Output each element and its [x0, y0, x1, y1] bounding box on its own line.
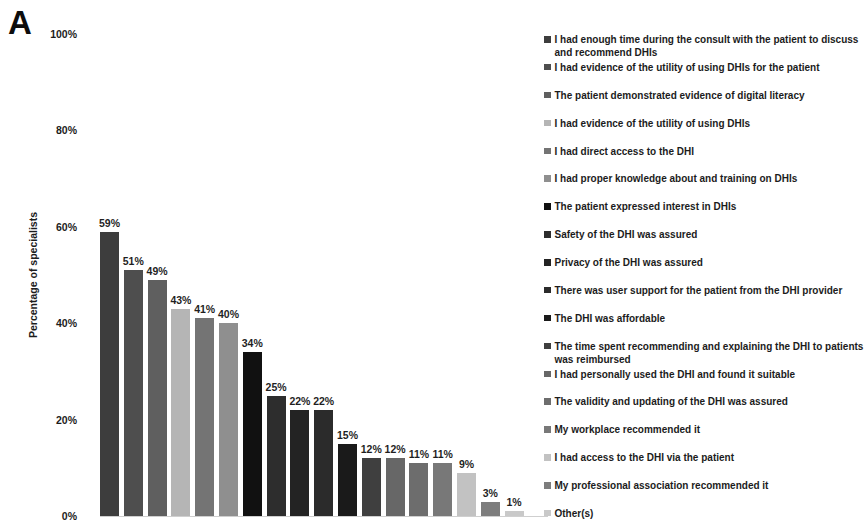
bar-value-label: 59%	[94, 217, 126, 229]
bar-value-label: 1%	[498, 496, 530, 508]
legend-item: Other(s)	[544, 507, 866, 520]
chart-bar	[338, 444, 357, 516]
bar-value-label: 34%	[236, 337, 268, 349]
legend-item: I had evidence of the utility of using D…	[544, 117, 866, 130]
legend-marker-swatch	[544, 120, 551, 127]
legend-item: I had evidence of the utility of using D…	[544, 61, 866, 74]
chart-bar	[195, 318, 214, 516]
chart-bar	[314, 410, 333, 516]
legend-item: I had personally used the DHI and found …	[544, 368, 866, 381]
y-tick-label: 60%	[31, 221, 77, 233]
legend-item: The time spent recommending and explaini…	[544, 340, 866, 366]
legend-item-label: I had personally used the DHI and found …	[555, 368, 867, 381]
legend-item: The patient demonstrated evidence of dig…	[544, 89, 866, 102]
legend-marker-swatch	[544, 259, 551, 266]
bar-value-label: 25%	[260, 381, 292, 393]
bar-value-label: 22%	[308, 395, 340, 407]
chart-bar	[124, 270, 143, 516]
bar-value-label: 9%	[451, 458, 483, 470]
chart-bar	[219, 323, 238, 516]
legend-item-label: I had access to the DHI via the patient	[555, 451, 867, 464]
chart-bar	[100, 232, 119, 516]
y-tick-label: 40%	[31, 317, 77, 329]
x-axis-line	[100, 516, 548, 517]
legend-item: The patient expressed interest in DHIs	[544, 200, 866, 213]
legend-marker-swatch	[544, 203, 551, 210]
legend-item-label: There was user support for the patient f…	[555, 284, 867, 297]
legend-item-label: I had direct access to the DHI	[555, 145, 867, 158]
legend-item: There was user support for the patient f…	[544, 284, 866, 297]
figure-panel-a: A Percentage of specialists 100%80%60%40…	[0, 0, 867, 526]
bar-value-label: 15%	[332, 429, 364, 441]
y-tick-label: 0%	[31, 510, 77, 522]
y-tick-label: 80%	[31, 124, 77, 136]
legend-item-label: The patient expressed interest in DHIs	[555, 200, 867, 213]
legend-item-label: I had enough time during the consult wit…	[555, 33, 867, 59]
chart-bar	[386, 458, 405, 516]
chart-bar	[267, 396, 286, 517]
legend-item: The DHI was affordable	[544, 312, 866, 325]
y-tick-label: 100%	[31, 28, 77, 40]
bar-value-label: 40%	[213, 308, 245, 320]
legend-item-label: The time spent recommending and explaini…	[555, 340, 867, 366]
legend-marker-swatch	[544, 398, 551, 405]
chart-bar	[290, 410, 309, 516]
legend-marker-swatch	[544, 64, 551, 71]
chart-bar	[362, 458, 381, 516]
legend-item: I had access to the DHI via the patient	[544, 451, 866, 464]
legend-item-label: My workplace recommended it	[555, 423, 867, 436]
legend-marker-swatch	[544, 92, 551, 99]
legend-marker-swatch	[544, 426, 551, 433]
legend-item: My professional association recommended …	[544, 479, 866, 492]
legend-marker-swatch	[544, 231, 551, 238]
legend-item: Safety of the DHI was assured	[544, 228, 866, 241]
chart-bar	[433, 463, 452, 516]
legend-item-label: My professional association recommended …	[555, 479, 867, 492]
chart-bar	[243, 352, 262, 516]
panel-label: A	[8, 4, 32, 42]
legend-marker-swatch	[544, 343, 551, 350]
legend-item-label: I had evidence of the utility of using D…	[555, 117, 867, 130]
legend-item: I had direct access to the DHI	[544, 145, 866, 158]
legend-item: My workplace recommended it	[544, 423, 866, 436]
legend-marker-swatch	[544, 175, 551, 182]
chart-bar	[481, 502, 500, 516]
plot-area: 59%51%49%43%41%40%34%25%22%22%15%12%12%1…	[100, 34, 548, 516]
legend-item-label: Other(s)	[555, 507, 867, 520]
legend-item: The validity and updating of the DHI was…	[544, 395, 866, 408]
legend-item-label: The patient demonstrated evidence of dig…	[555, 89, 867, 102]
legend-item-label: I had proper knowledge about and trainin…	[555, 172, 867, 185]
chart-bar	[457, 473, 476, 516]
legend-item-label: The validity and updating of the DHI was…	[555, 395, 867, 408]
bar-value-label: 49%	[141, 265, 173, 277]
chart-bar	[148, 280, 167, 516]
y-tick-label: 20%	[31, 414, 77, 426]
legend-item-label: Safety of the DHI was assured	[555, 228, 867, 241]
legend-item-label: I had evidence of the utility of using D…	[555, 61, 867, 74]
legend: I had enough time during the consult wit…	[544, 0, 866, 526]
chart-bar	[505, 511, 524, 516]
legend-item: I had proper knowledge about and trainin…	[544, 172, 866, 185]
chart-bar	[409, 463, 428, 516]
legend-item: Privacy of the DHI was assured	[544, 256, 866, 269]
legend-marker-swatch	[544, 371, 551, 378]
legend-item: I had enough time during the consult wit…	[544, 33, 866, 59]
legend-marker-swatch	[544, 315, 551, 322]
legend-marker-swatch	[544, 454, 551, 461]
legend-marker-swatch	[544, 510, 551, 517]
legend-marker-swatch	[544, 36, 551, 43]
legend-marker-swatch	[544, 148, 551, 155]
chart-bar	[171, 309, 190, 516]
legend-item-label: The DHI was affordable	[555, 312, 867, 325]
legend-marker-swatch	[544, 287, 551, 294]
legend-item-label: Privacy of the DHI was assured	[555, 256, 867, 269]
legend-marker-swatch	[544, 482, 551, 489]
